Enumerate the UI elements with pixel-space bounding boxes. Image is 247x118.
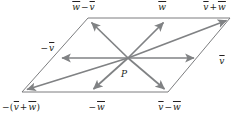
label-neg-v-plus-w: −(v+w) bbox=[2, 103, 40, 112]
vector-parallelogram-figure: w−v w v+w −v v P −(v+w) −w v−w bbox=[0, 0, 247, 118]
label-v-minus-w-minus: − bbox=[164, 102, 173, 112]
label-v-plus-w-w: w bbox=[218, 3, 227, 12]
label-v-v: v bbox=[219, 57, 225, 66]
label-neg-w-minus: − bbox=[88, 102, 97, 112]
label-v-plus-w-plus: + bbox=[209, 2, 218, 12]
label-neg-v-plus-w-open: −( bbox=[2, 102, 13, 112]
label-neg-v-minus: − bbox=[40, 43, 49, 53]
label-neg-v-plus-w-w: w bbox=[28, 103, 37, 112]
label-v-minus-w-v: v bbox=[158, 103, 164, 112]
label-w-minus-v-minus: − bbox=[81, 2, 90, 12]
label-center-point-p: P bbox=[121, 70, 127, 79]
label-v-minus-w: v−w bbox=[158, 103, 181, 112]
label-w-minus-v-v: v bbox=[89, 3, 95, 12]
vector-w bbox=[128, 23, 164, 59]
vector-neg-v-plus-w bbox=[27, 58, 128, 90]
label-neg-w-w: w bbox=[97, 103, 106, 112]
label-v-minus-w-w: w bbox=[173, 103, 182, 112]
vector-w-minus-v bbox=[92, 23, 129, 59]
label-w-minus-v-w: w bbox=[72, 3, 81, 12]
label-w-minus-v: w−v bbox=[72, 3, 95, 12]
label-v: v bbox=[219, 57, 225, 66]
label-v-plus-w-v: v bbox=[203, 3, 209, 12]
label-w-w: w bbox=[158, 3, 167, 12]
label-neg-w: −w bbox=[88, 103, 105, 112]
diagram-canvas bbox=[0, 0, 247, 118]
label-neg-v-plus-w-close: ) bbox=[37, 102, 41, 112]
vector-v-minus-w bbox=[128, 58, 165, 89]
label-w: w bbox=[158, 3, 167, 12]
label-neg-v-v: v bbox=[49, 44, 55, 53]
label-neg-v-plus-w-plus: + bbox=[19, 102, 28, 112]
label-v-plus-w: v+w bbox=[203, 3, 226, 12]
label-neg-v: −v bbox=[40, 44, 55, 53]
